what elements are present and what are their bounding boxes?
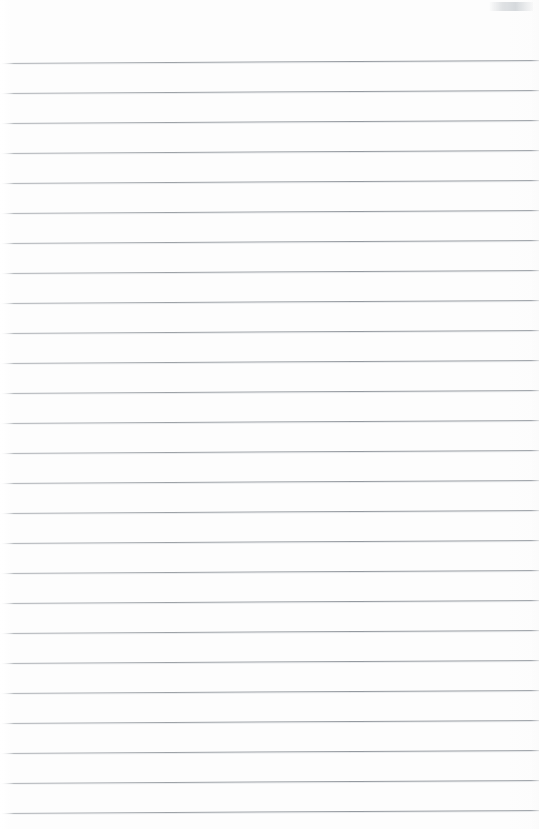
rule-line [0,780,539,784]
rule-line [0,810,539,814]
rule-line [0,540,539,544]
rule-line [0,630,539,634]
rule-line [0,300,539,304]
rule-line [0,390,539,394]
rule-line [0,660,539,664]
rule-line [0,360,539,364]
ruled-lines-group [0,0,539,829]
rule-line [0,240,539,244]
rule-line [0,450,539,454]
rule-line [0,270,539,274]
rule-line [0,210,539,214]
rule-line [0,570,539,574]
rule-line [0,120,539,124]
rule-line [0,330,539,334]
rule-line [0,480,539,484]
rule-line [0,150,539,154]
rule-line [0,720,539,724]
rule-line [0,510,539,514]
rule-line [0,90,539,94]
scanned-page [0,0,539,829]
rule-line [0,600,539,604]
rule-line [0,690,539,694]
rule-line [0,420,539,424]
rule-line [0,750,539,754]
rule-line [0,60,539,64]
rule-line [0,180,539,184]
